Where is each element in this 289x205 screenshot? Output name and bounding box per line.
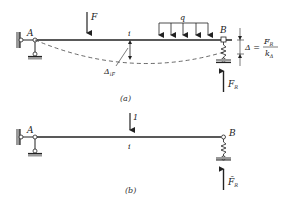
caption-b: (b) — [125, 186, 136, 195]
ground-hatch-a — [28, 57, 42, 60]
beam-diagram: A F i ΔiF q B — [0, 0, 289, 205]
spring-icon — [221, 42, 226, 58]
load-q-label: q — [180, 13, 185, 22]
label-a-b: A — [26, 125, 34, 135]
reaction-label-b: F̄R — [227, 176, 238, 188]
label-b: B — [219, 25, 227, 35]
figure-b: A 1 i B F̄R (b) — [16, 113, 238, 195]
joint-b-icon — [221, 37, 226, 42]
distributed-load-arrows — [159, 23, 208, 35]
reaction-label-a: FR — [227, 79, 238, 90]
point-i-label-b: i — [128, 142, 131, 151]
settlement-label: Δ = — [244, 43, 260, 52]
point-i-label: i — [128, 29, 131, 38]
label-a: A — [26, 28, 34, 38]
spring-icon — [221, 139, 226, 156]
settlement-numerator: FR — [263, 37, 274, 47]
load-f-label: F — [90, 12, 98, 22]
hinge-a-icon — [33, 135, 37, 139]
label-b-b: B — [228, 128, 236, 138]
settlement-denominator: kΔ — [265, 49, 274, 59]
caption-a: (a) — [120, 94, 131, 103]
pin-icon — [19, 38, 23, 42]
deflection-label: ΔiF — [103, 67, 115, 77]
unit-load-label: 1 — [133, 113, 138, 122]
figure-a: A F i ΔiF q B — [16, 12, 278, 103]
